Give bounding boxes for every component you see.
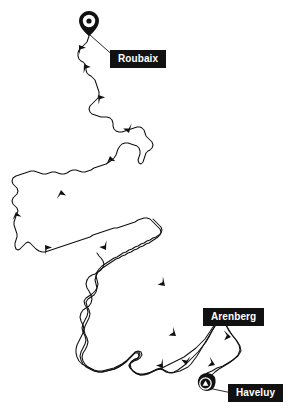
- route-main-group: [12, 33, 240, 386]
- marker-haveluy[interactable]: [198, 373, 216, 391]
- direction-arrow-icon: [156, 276, 167, 288]
- map-pin-dot: [86, 18, 91, 23]
- route-segment-lower-meander: [76, 280, 161, 375]
- direction-arrow-icon: [155, 358, 164, 369]
- route-map: Roubaix Arenberg Haveluy: [0, 0, 297, 419]
- route-path-group: [76, 219, 241, 384]
- leader-lines-group: [90, 35, 240, 396]
- direction-arrow-icon: [180, 354, 191, 366]
- label-roubaix[interactable]: Roubaix: [110, 50, 166, 68]
- direction-arrow-icon: [97, 94, 107, 105]
- direction-arrow-icon: [166, 327, 177, 339]
- marker-roubaix[interactable]: [79, 11, 99, 36]
- direction-arrow-icon: [99, 240, 108, 250]
- direction-arrow-icon: [57, 190, 67, 202]
- route-main: [12, 33, 240, 386]
- label-haveluy[interactable]: Haveluy: [228, 384, 283, 402]
- direction-arrow-icon: [11, 211, 22, 220]
- direction-arrows-group: [11, 44, 232, 369]
- label-arenberg[interactable]: Arenberg: [203, 308, 264, 326]
- direction-arrow-icon: [204, 357, 216, 369]
- direction-arrow-icon: [78, 44, 87, 55]
